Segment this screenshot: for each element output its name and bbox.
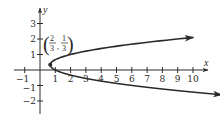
x-tick-label: 7 xyxy=(144,74,150,84)
y-axis-label: y xyxy=(42,4,48,15)
x-tick-label: 6 xyxy=(129,74,135,84)
vertex-label-x-numerator: 2 xyxy=(50,34,54,43)
vertex-label-x-denominator: 3 xyxy=(50,44,54,53)
vertex-label-y-denominator: 3 xyxy=(62,44,66,53)
y-tick-label: 2 xyxy=(30,34,36,44)
y-tick-label: 3 xyxy=(30,19,36,29)
x-tick-label: 10 xyxy=(187,74,199,84)
y-tick-label: −1 xyxy=(23,83,36,93)
x-tick-label: 1 xyxy=(52,74,58,84)
vertex-label-close-paren: ) xyxy=(67,33,74,56)
parabola-graph: x y −112345678910 −2−1123 ( 2 3 , 1 3 ) xyxy=(0,0,220,117)
y-tick-label: 1 xyxy=(30,50,36,60)
y-tick-label: −2 xyxy=(23,96,36,106)
x-axis-label: x xyxy=(203,57,209,68)
vertex-label: ( 2 3 , 1 3 ) xyxy=(43,33,74,56)
vertex-label-open-paren: ( xyxy=(43,33,50,56)
x-tick-label: 8 xyxy=(160,74,166,84)
x-tick-label: 9 xyxy=(175,74,181,84)
vertex-label-y-numerator: 1 xyxy=(62,34,66,43)
vertex-point xyxy=(48,63,52,67)
vertex-label-comma: , xyxy=(57,42,59,51)
x-tick-label: 4 xyxy=(98,74,104,84)
